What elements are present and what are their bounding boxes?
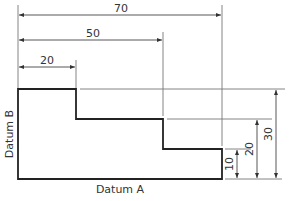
horizontal-extension-lines: [80, 89, 285, 179]
dim-label-30: 30: [262, 127, 275, 141]
dim-label-50: 50: [86, 27, 100, 40]
part-outline: [18, 89, 222, 179]
dim-label-10: 10: [223, 157, 236, 171]
datum-dimension-drawing: 70 50 20 10 20 30 Datum A Datum B: [0, 0, 289, 201]
dim-label-20: 20: [40, 54, 54, 67]
datum-b-label: Datum B: [3, 110, 16, 158]
datum-a-label: Datum A: [96, 183, 145, 196]
dim-label-70: 70: [114, 2, 128, 15]
vertical-extension-lines: [18, 5, 222, 146]
dim-label-20-vertical: 20: [243, 142, 256, 156]
